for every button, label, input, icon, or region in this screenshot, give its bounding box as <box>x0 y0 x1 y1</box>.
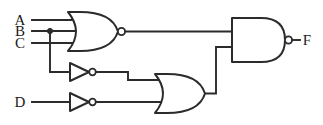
inverter-1-output-bubble <box>89 69 96 76</box>
junction-dot-b <box>47 28 52 33</box>
inverter-2-body <box>70 93 89 111</box>
label-output-f: F <box>303 32 311 48</box>
inverter-1-body <box>70 63 89 81</box>
nand-gate-body <box>232 18 285 62</box>
nand-gate-output-bubble <box>285 36 292 43</box>
logic-circuit-diagram: A B C D F <box>0 0 323 125</box>
circuit-schematic-canvas: A B C D F <box>0 0 323 125</box>
or-gate-body <box>155 74 205 113</box>
inverter-2-output-bubble <box>89 99 96 106</box>
label-input-c: C <box>15 35 25 51</box>
wire-or-to-nand <box>205 47 232 94</box>
label-input-d: D <box>15 94 26 110</box>
wire-b-branch <box>50 31 68 72</box>
nor-gate-body <box>68 12 118 51</box>
nor-gate-output-bubble <box>118 28 125 35</box>
wire-inverter1-to-or <box>96 72 162 80</box>
